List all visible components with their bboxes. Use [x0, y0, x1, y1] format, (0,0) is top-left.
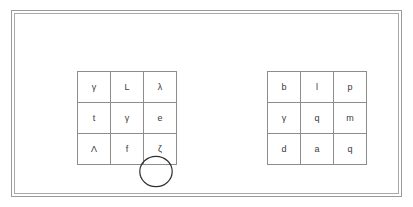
right-grid-table: b l p γ q m d a q: [267, 71, 367, 165]
right-cell-r0c0[interactable]: b: [268, 72, 301, 103]
left-cell-r2c2[interactable]: ζ: [144, 134, 177, 165]
left-cell-r2c0-glyph: Λ: [91, 144, 97, 153]
left-cell-r1c2[interactable]: e: [144, 103, 177, 134]
right-cell-r1c0-glyph: γ: [282, 113, 287, 122]
left-cell-r1c0[interactable]: t: [78, 103, 111, 134]
left-cell-r0c0[interactable]: γ: [78, 72, 111, 103]
right-cell-r0c1-glyph: l: [316, 82, 318, 91]
left-cell-r0c2-glyph: λ: [158, 82, 163, 91]
left-cell-r2c1[interactable]: f: [111, 134, 144, 165]
inner-frame-border: γ L λ t γ e Λ f ζ b l p: [14, 13, 399, 194]
left-cell-r2c0[interactable]: Λ: [78, 134, 111, 165]
right-cell-r1c0[interactable]: γ: [268, 103, 301, 134]
left-cell-r1c0-glyph: t: [93, 113, 96, 122]
right-cell-r2c1-glyph: a: [314, 144, 319, 153]
right-cell-r0c2[interactable]: p: [334, 72, 367, 103]
left-cell-r0c2[interactable]: λ: [144, 72, 177, 103]
right-letter-grid: b l p γ q m d a q: [267, 71, 367, 165]
right-cell-r0c2-glyph: p: [347, 82, 352, 91]
left-cell-r1c1[interactable]: γ: [111, 103, 144, 134]
right-cell-r2c2[interactable]: q: [334, 134, 367, 165]
left-cell-r2c2-glyph: ζ: [158, 144, 162, 153]
right-cell-r0c1[interactable]: l: [301, 72, 334, 103]
right-cell-r2c2-glyph: q: [347, 144, 352, 153]
left-cell-r0c0-glyph: γ: [92, 82, 97, 91]
left-cell-r0c1[interactable]: L: [111, 72, 144, 103]
right-cell-r1c1[interactable]: q: [301, 103, 334, 134]
right-cell-r2c1[interactable]: a: [301, 134, 334, 165]
left-cell-r1c2-glyph: e: [157, 113, 162, 122]
left-letter-grid: γ L λ t γ e Λ f ζ: [77, 71, 177, 165]
right-cell-r1c1-glyph: q: [314, 113, 319, 122]
right-cell-r2c0[interactable]: d: [268, 134, 301, 165]
left-grid-table: γ L λ t γ e Λ f ζ: [77, 71, 177, 165]
left-cell-r2c1-glyph: f: [126, 144, 129, 153]
right-cell-r1c2-glyph: m: [346, 113, 354, 122]
right-cell-r2c0-glyph: d: [281, 144, 286, 153]
page-canvas: γ L λ t γ e Λ f ζ b l p: [0, 0, 413, 207]
left-cell-r0c1-glyph: L: [124, 82, 129, 91]
right-cell-r0c0-glyph: b: [281, 82, 286, 91]
right-cell-r1c2[interactable]: m: [334, 103, 367, 134]
left-cell-r1c1-glyph: γ: [125, 113, 130, 122]
